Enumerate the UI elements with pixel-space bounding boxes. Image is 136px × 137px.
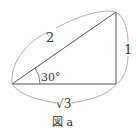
angle-label: 30° bbox=[41, 71, 61, 84]
triangle-diagram: 2 1 30° √3 図 a bbox=[0, 0, 136, 137]
angle-arc bbox=[35, 68, 40, 84]
figure-caption: 図 a bbox=[52, 116, 73, 129]
hypotenuse-line bbox=[12, 12, 116, 84]
hypotenuse-label: 2 bbox=[46, 30, 54, 45]
base-label: √3 bbox=[56, 97, 71, 111]
vertical-side-label: 1 bbox=[124, 42, 132, 57]
